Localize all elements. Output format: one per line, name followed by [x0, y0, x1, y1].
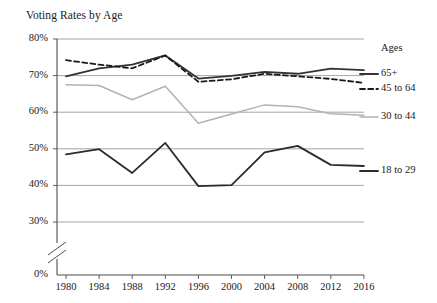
- legend-label-30-to-44: 30 to 44: [381, 110, 415, 121]
- series-line-65plus: [66, 55, 364, 78]
- legend-swatches: [360, 74, 378, 171]
- y-tick-label: 40%: [14, 178, 48, 189]
- plot-area: [0, 0, 437, 303]
- data-series: [66, 55, 364, 186]
- y-tick-label: 70%: [14, 69, 48, 80]
- series-line-18-to-29: [66, 143, 364, 186]
- y-tick-label-zero: 0%: [14, 268, 48, 279]
- series-line-45-to-64: [66, 55, 364, 82]
- y-tick-label: 30%: [14, 215, 48, 226]
- y-axis-ticks: [53, 39, 57, 222]
- y-tick-label: 50%: [14, 142, 48, 153]
- series-line-30-to-44: [66, 85, 364, 123]
- legend-label-18-to-29: 18 to 29: [381, 164, 415, 175]
- y-tick-label: 60%: [14, 105, 48, 116]
- x-tick-label: 2016: [344, 281, 384, 292]
- legend-label-45-to-64: 45 to 64: [381, 82, 415, 93]
- gridlines: [57, 39, 364, 222]
- y-tick-label: 80%: [14, 32, 48, 43]
- legend-heading: Ages: [381, 42, 403, 53]
- x-axis-ticks: [66, 275, 364, 279]
- voting-rates-chart: Voting Rates by Age 80%70%60%50%40%30%0%…: [0, 0, 437, 303]
- legend-label-65plus: 65+: [381, 67, 397, 78]
